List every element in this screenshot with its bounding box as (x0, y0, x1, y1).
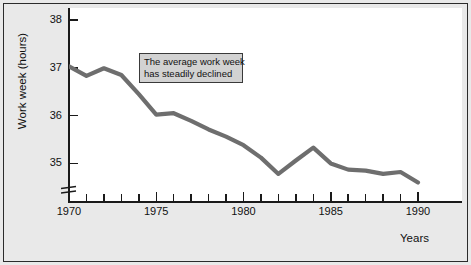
x-tick-label-1970: 1970 (49, 205, 89, 217)
annotation-line-1: The average work week (144, 56, 239, 68)
x-tick-label-1985: 1985 (311, 205, 351, 217)
y-tick-label-36: 36 (40, 110, 62, 121)
x-tick-label-1990: 1990 (398, 205, 438, 217)
y-axis-title: Work week (hours) (16, 11, 28, 151)
chart-page: 38373635 19701975198019851990 Work week … (0, 0, 471, 265)
annotation-textbox: The average work week has steadily decli… (139, 53, 243, 83)
data-line (69, 8, 462, 201)
x-tick-label-1980: 1980 (224, 205, 264, 217)
annotation-line-2: has steadily declined (144, 68, 239, 80)
y-tick-label-35: 35 (40, 157, 62, 168)
x-axis-title: Years (400, 232, 429, 244)
x-axis-line (68, 201, 462, 203)
y-tick-label-37: 37 (40, 62, 62, 73)
y-tick-label-38: 38 (40, 14, 62, 25)
x-tick-label-1975: 1975 (136, 205, 176, 217)
